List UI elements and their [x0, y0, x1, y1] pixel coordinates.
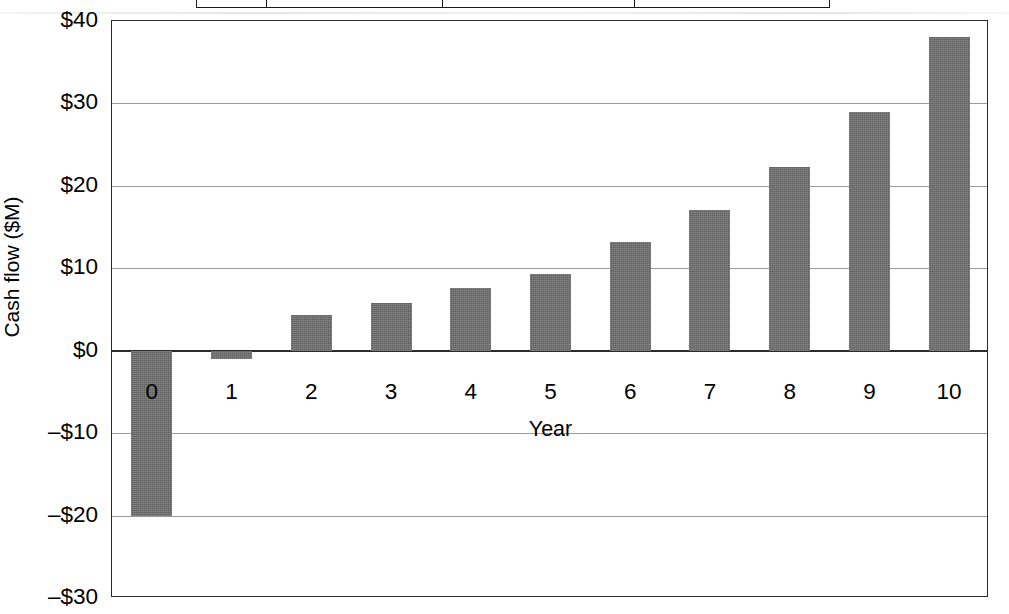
x-axis-tick-label: 6	[600, 381, 660, 404]
x-axis-tick-label: 2	[281, 381, 341, 404]
x-axis-tick-label: 7	[680, 381, 740, 404]
x-axis-tick-label: 10	[919, 381, 979, 404]
bar	[689, 210, 730, 351]
x-axis-tick-label: 1	[202, 381, 262, 404]
bar	[929, 37, 970, 350]
bar	[849, 112, 890, 351]
x-axis-tick-label: 4	[441, 381, 501, 404]
bar	[291, 315, 332, 350]
y-axis-title: Cash flow ($M)	[0, 137, 24, 397]
x-axis-tick-label: 9	[839, 381, 899, 404]
y-axis-tick-label: $30	[0, 91, 98, 114]
y-axis-tick-label: $40	[0, 9, 98, 32]
bar	[211, 351, 252, 359]
x-axis-tick-label: 3	[361, 381, 421, 404]
bar	[371, 303, 412, 351]
bar	[530, 274, 571, 351]
x-axis-tick-label: 0	[122, 381, 182, 404]
bar-series	[112, 21, 987, 596]
y-axis-tick-label: –$20	[0, 504, 98, 527]
x-axis-tick-label: 5	[521, 381, 581, 404]
x-axis-tick-label: 8	[760, 381, 820, 404]
bar	[450, 288, 491, 351]
x-axis-title: Year	[112, 417, 989, 442]
y-axis-tick-label: –$30	[0, 586, 98, 609]
chart-page: $40$30$20$10$0–$10–$20–$30 Cash flow ($M…	[0, 0, 1009, 614]
bar	[610, 242, 651, 351]
y-axis-tick-label: –$10	[0, 421, 98, 444]
plot-area: 012345678910 Year	[111, 20, 988, 597]
bar	[769, 167, 810, 351]
